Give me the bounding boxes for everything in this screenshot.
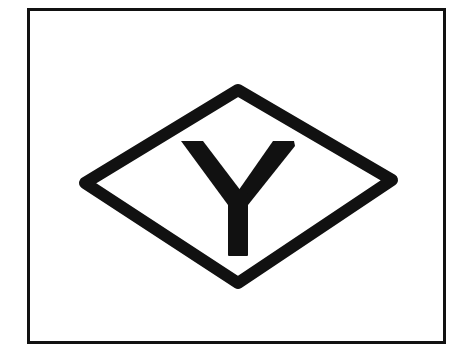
diamond-y-symbol <box>0 0 471 361</box>
letter-y-icon <box>181 141 295 256</box>
